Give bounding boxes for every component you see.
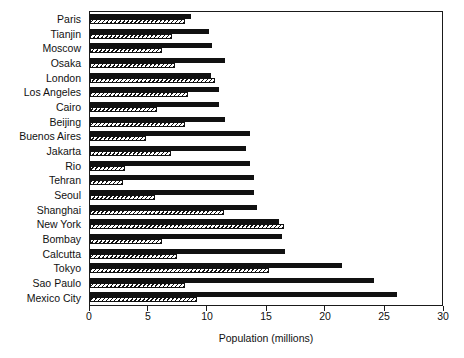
bar-hatched [90, 195, 155, 200]
x-axis-tick-label: 0 [86, 311, 92, 322]
category-label: Bombay [0, 232, 85, 247]
category-label: Tokyo [0, 261, 85, 276]
bar-group [90, 247, 443, 262]
category-label: Tianjin [0, 27, 85, 42]
category-label: Tehran [0, 173, 85, 188]
bar-hatched [90, 210, 224, 215]
bar-group [90, 276, 443, 291]
bar-hatched [90, 63, 175, 68]
category-label: Los Angeles [0, 85, 85, 100]
bar-group [90, 159, 443, 174]
bar-group [90, 188, 443, 203]
bar-group [90, 217, 443, 232]
bar-group [90, 41, 443, 56]
x-axis-tick-label: 25 [378, 311, 390, 322]
bar-group [90, 173, 443, 188]
bar-group [90, 290, 443, 305]
bar-hatched [90, 48, 162, 53]
bar-hatched [90, 151, 171, 156]
bar-hatched [90, 122, 185, 127]
bar-hatched [90, 166, 125, 171]
bar-hatched [90, 297, 197, 302]
x-axis-tick-label: 15 [260, 311, 272, 322]
bar-hatched [90, 78, 215, 83]
bar-group [90, 12, 443, 27]
bar-hatched [90, 19, 185, 24]
category-label: Cairo [0, 100, 85, 115]
bar-group [90, 232, 443, 247]
bar-group [90, 203, 443, 218]
bar-group [90, 27, 443, 42]
bar-group [90, 71, 443, 86]
category-axis-labels: ParisTianjinMoscowOsakaLondonLos Angeles… [0, 12, 85, 305]
category-label: London [0, 71, 85, 86]
category-label: Jakarta [0, 144, 85, 159]
bar-hatched [90, 283, 185, 288]
bar-group [90, 129, 443, 144]
category-label: Mexico City [0, 290, 85, 305]
category-label: Moscow [0, 41, 85, 56]
bar-hatched [90, 239, 162, 244]
bar-hatched [90, 224, 284, 229]
bar-hatched [90, 136, 146, 141]
x-axis-tick-label: 10 [201, 311, 213, 322]
bar-group [90, 144, 443, 159]
bar-group [90, 85, 443, 100]
bar-hatched [90, 268, 269, 273]
bar-group [90, 56, 443, 71]
category-label: Paris [0, 12, 85, 27]
category-label: New York [0, 217, 85, 232]
category-label: Rio [0, 159, 85, 174]
category-label: Beijing [0, 115, 85, 130]
category-label: Sao Paulo [0, 276, 85, 291]
category-label: Buenos Aires [0, 129, 85, 144]
x-axis-tick-labels: 051015202530 [89, 311, 443, 325]
bar-group [90, 100, 443, 115]
x-axis-title: Population (millions) [89, 332, 443, 344]
bars-container [90, 12, 443, 305]
x-axis-tick-label: 20 [319, 311, 331, 322]
bar-hatched [90, 254, 177, 259]
category-label: Shanghai [0, 203, 85, 218]
bar-hatched [90, 107, 157, 112]
bar-hatched [90, 92, 188, 97]
x-axis-tick-label: 5 [145, 311, 151, 322]
bar-hatched [90, 180, 123, 185]
category-label: Osaka [0, 56, 85, 71]
category-label: Calcutta [0, 247, 85, 262]
bar-group [90, 115, 443, 130]
category-label: Seoul [0, 188, 85, 203]
bar-group [90, 261, 443, 276]
x-axis-tick-label: 30 [437, 311, 449, 322]
bar-hatched [90, 34, 172, 39]
population-bar-chart: ParisTianjinMoscowOsakaLondonLos Angeles… [0, 0, 464, 358]
